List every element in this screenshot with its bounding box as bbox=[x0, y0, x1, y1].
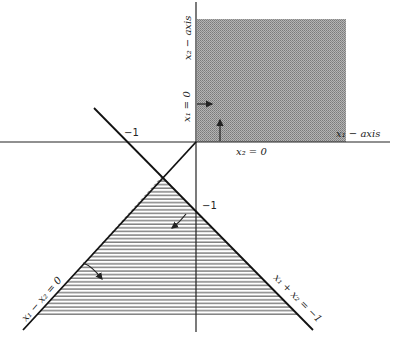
label-x1-eq-0: x₁ = 0 bbox=[181, 91, 192, 122]
x-axis-label: x₁ − axis bbox=[336, 128, 380, 139]
hatched-region bbox=[37, 176, 298, 315]
x-tick-minus-1: −1 bbox=[124, 127, 139, 138]
y-tick-minus-1: −1 bbox=[202, 200, 217, 211]
label-x2-eq-0: x₂ = 0 bbox=[236, 146, 267, 157]
y-axis-label: x₂ − axis bbox=[182, 16, 193, 60]
diagram-canvas: x₁ − axis x₂ − axis −1 −1 x₁ = 0 x₂ = 0 … bbox=[0, 0, 395, 338]
first-quadrant-region bbox=[197, 19, 346, 142]
